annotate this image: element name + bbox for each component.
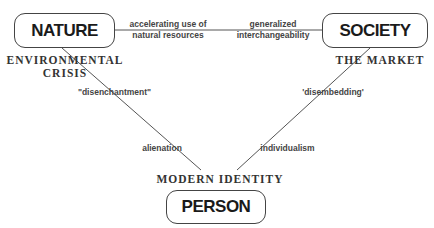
nature-caption: ENVIRONMENTAL CRISIS xyxy=(0,54,130,80)
individualism-label: individualism xyxy=(250,143,325,154)
society-node: SOCIETY xyxy=(322,13,428,48)
nature-society-right-label: generalized interchangeability xyxy=(228,19,318,40)
alienation-label: alienation xyxy=(132,143,192,154)
society-caption: THE MARKET xyxy=(325,54,434,67)
label-line: interchangeability xyxy=(228,30,318,41)
nature-caption-line1: ENVIRONMENTAL xyxy=(0,54,130,67)
label-line: generalized xyxy=(228,19,318,30)
society-label: SOCIETY xyxy=(339,21,410,41)
disenchantment-label: "disenchantment" xyxy=(62,87,167,98)
nature-label: NATURE xyxy=(31,21,98,41)
person-node: PERSON xyxy=(166,190,266,224)
label-line: natural resources xyxy=(118,30,218,41)
person-label: PERSON xyxy=(182,197,251,217)
nature-society-left-label: accelerating use of natural resources xyxy=(118,19,218,40)
person-caption: MODERN IDENTITY xyxy=(150,173,290,186)
nature-node: NATURE xyxy=(14,13,115,48)
disembedding-label: 'disembedding' xyxy=(293,87,373,98)
nature-caption-line2: CRISIS xyxy=(0,67,130,80)
label-line: accelerating use of xyxy=(118,19,218,30)
